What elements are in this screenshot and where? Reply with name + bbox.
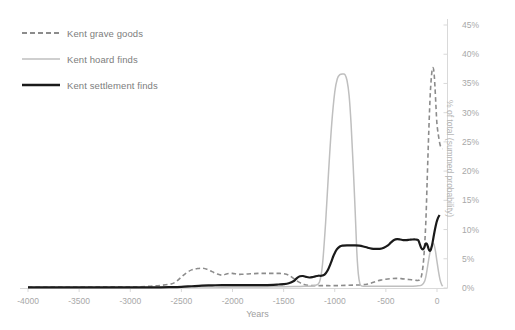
- y-tick-label: 30%: [462, 108, 479, 118]
- y-axis-title: % of total (summed probability): [445, 100, 455, 240]
- x-tick-label: -2000: [222, 296, 244, 306]
- x-tick-label: -3500: [68, 296, 90, 306]
- y-tick-label: 5%: [462, 254, 474, 264]
- legend-item-grave-goods[interactable]: Kent grave goods: [22, 20, 222, 46]
- legend-label-grave-goods: Kent grave goods: [67, 28, 143, 39]
- series-line-kent-grave-goods: [28, 68, 443, 287]
- y-tick-label: 10%: [462, 225, 479, 235]
- legend-label-hoard-finds: Kent hoard finds: [67, 54, 138, 65]
- x-tick-label: -500: [377, 296, 394, 306]
- chart-container: Kent grave goods Kent hoard finds Kent s…: [0, 0, 515, 330]
- y-tick-label: 20%: [462, 166, 479, 176]
- series-line-kent-hoard-finds: [28, 74, 443, 287]
- legend-swatch-solid-light-icon: [22, 54, 60, 64]
- chart-legend: Kent grave goods Kent hoard finds Kent s…: [22, 20, 222, 98]
- y-tick-label: 0%: [462, 283, 474, 293]
- legend-swatch-dashed-icon: [22, 28, 60, 38]
- legend-swatch-solid-black-icon: [22, 80, 60, 90]
- x-tick-label: -2500: [171, 296, 193, 306]
- x-tick-label: -3000: [119, 296, 141, 306]
- y-tick-label: 35%: [462, 78, 479, 88]
- y-tick-label: 15%: [462, 195, 479, 205]
- legend-label-settlement-finds: Kent settlement finds: [67, 80, 158, 91]
- x-tick-label: -1500: [273, 296, 295, 306]
- legend-item-settlement-finds[interactable]: Kent settlement finds: [22, 72, 222, 98]
- legend-item-hoard-finds[interactable]: Kent hoard finds: [22, 46, 222, 72]
- y-tick-label: 45%: [462, 20, 479, 30]
- y-tick-label: 40%: [462, 49, 479, 59]
- x-axis-title: Years: [0, 309, 515, 319]
- x-tick-label: -1000: [324, 296, 346, 306]
- y-tick-label: 25%: [462, 137, 479, 147]
- series-layer: [28, 68, 443, 288]
- series-line-kent-settlement-finds: [28, 215, 440, 287]
- x-tick-label: 0: [435, 296, 440, 306]
- x-tick-label: -4000: [17, 296, 39, 306]
